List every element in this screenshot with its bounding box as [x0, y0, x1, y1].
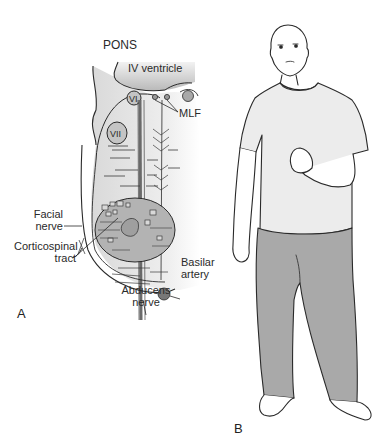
panel-label-b: B	[234, 421, 243, 436]
pants	[256, 228, 357, 402]
patient-figure	[0, 0, 392, 442]
head	[270, 25, 308, 76]
right-foot	[330, 400, 371, 420]
left-foot	[260, 395, 295, 416]
